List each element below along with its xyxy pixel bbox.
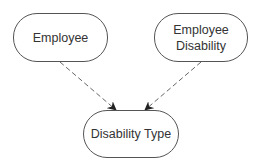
- node-label-line-1: Employee: [173, 22, 229, 38]
- node-disability-type[interactable]: Disability Type: [83, 110, 179, 158]
- node-employee-disability[interactable]: Employee Disability: [154, 13, 248, 62]
- node-label-line-2: Disability: [176, 38, 226, 54]
- node-label: Employee: [33, 30, 89, 46]
- edge-employee-to-disability-type: [60, 62, 116, 110]
- node-label: Disability Type: [91, 126, 171, 142]
- node-employee[interactable]: Employee: [13, 13, 108, 62]
- edge-employee-disability-to-disability-type: [145, 62, 201, 110]
